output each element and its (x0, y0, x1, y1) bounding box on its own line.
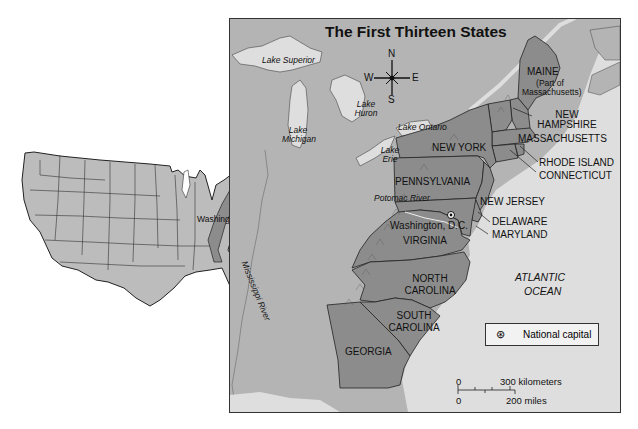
map-title: The First Thirteen States (325, 24, 507, 40)
capital-star-icon: ⊛ (496, 328, 505, 341)
map-legend: ⊛ National capital (485, 323, 599, 346)
scale-mi-label: 200 miles (506, 396, 547, 406)
legend-label: National capital (523, 329, 591, 340)
scale-km-zero: 0 (456, 377, 461, 387)
label-new-york: NEW YORK (432, 143, 486, 153)
lake-huron-label: Lake Huron (352, 100, 380, 117)
lake-superior-label: Lake Superior (262, 56, 315, 65)
label-virginia: VIRGINIA (403, 236, 447, 246)
compass-w: W (364, 73, 373, 83)
label-connecticut: CONNECTICUT (539, 171, 612, 181)
compass-n: N (388, 49, 395, 59)
lake-michigan-label: Lake Michigan (282, 126, 314, 143)
lake-ontario-label: Lake Ontario (398, 123, 447, 132)
label-maine: MAINE (527, 67, 559, 77)
scale-mi-zero: 0 (456, 396, 461, 406)
scale-km-label: 300 kilometers (500, 377, 562, 387)
label-north-carolina: NORTH CAROLINA (402, 273, 458, 296)
atlantic-label-line1: ATLANTIC (515, 271, 565, 283)
lake-erie-label: Lake Erie (380, 146, 400, 163)
atlantic-label-line2: OCEAN (524, 285, 561, 297)
label-rhode-island: RHODE ISLAND (539, 158, 614, 168)
compass-e: E (412, 73, 419, 83)
label-maine-note: (Part of Massachusetts) (522, 79, 578, 96)
label-maryland: MARYLAND (492, 230, 547, 240)
label-massachusetts: MASSACHUSETTS (518, 134, 607, 144)
label-pennsylvania: PENNSYLVANIA (395, 177, 470, 187)
label-new-hampshire: NEW HAMPSHIRE (537, 110, 597, 130)
capital-label: Washington, D.C. (390, 221, 468, 231)
label-georgia: GEORGIA (345, 347, 392, 357)
potomac-river-label: Potomac River (374, 194, 430, 203)
compass-s: S (388, 95, 395, 105)
main-map (0, 0, 638, 429)
label-south-carolina: SOUTH CAROLINA (386, 310, 442, 333)
label-delaware: DELAWARE (492, 217, 547, 227)
label-new-jersey: NEW JERSEY (480, 197, 545, 207)
